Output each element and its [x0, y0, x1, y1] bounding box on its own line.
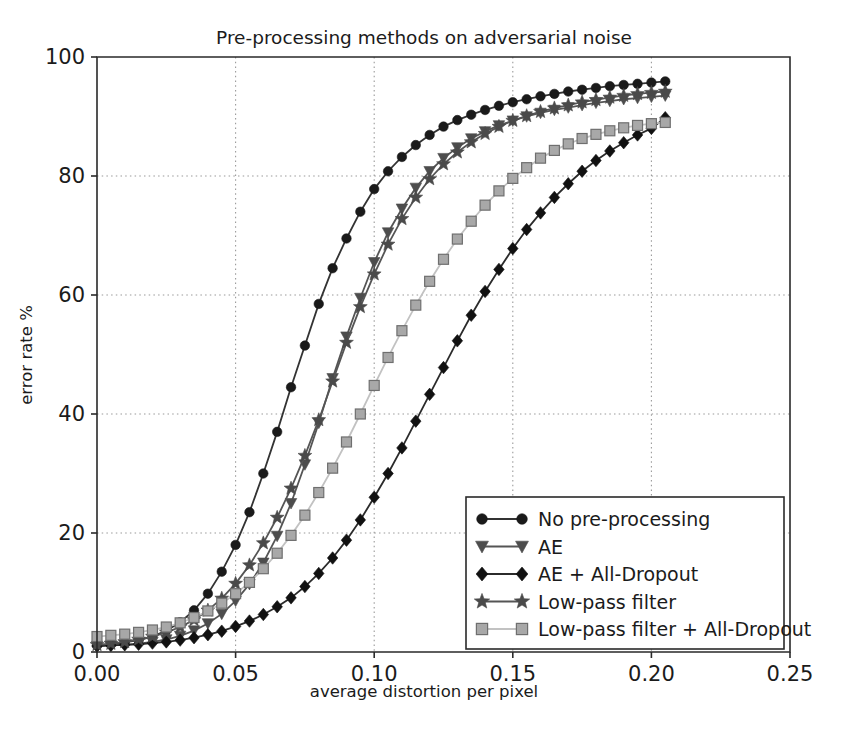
data-point-square [244, 577, 254, 587]
data-point-circle [494, 101, 504, 111]
chart-svg: 0.000.050.100.150.200.25020406080100 No … [0, 0, 846, 730]
data-point-square [605, 126, 615, 136]
data-point-square [466, 216, 476, 226]
data-point-circle [508, 97, 518, 107]
data-point-diamond [230, 620, 241, 633]
data-point-circle [272, 427, 282, 437]
data-point-square [189, 612, 199, 622]
data-point-circle [550, 89, 560, 99]
data-point-circle [425, 130, 435, 140]
data-point-star [326, 374, 340, 387]
data-point-circle [591, 83, 601, 93]
data-point-star [270, 510, 284, 523]
y-tick-label: 0 [72, 640, 85, 664]
y-tick-label: 80 [58, 164, 85, 188]
data-point-square [231, 589, 241, 599]
chart-title: Pre-processing methods on adversarial no… [216, 27, 632, 48]
data-point-diamond [397, 442, 408, 455]
y-tick-label: 40 [58, 402, 85, 426]
data-point-circle [314, 299, 324, 309]
data-point-circle [369, 184, 379, 194]
data-point-square [300, 510, 310, 520]
y-tick-label: 100 [45, 45, 85, 69]
data-point-diamond [591, 154, 602, 167]
data-point-triangle-down [285, 499, 297, 510]
data-point-square [397, 326, 407, 336]
legend[interactable]: No pre-processingAEAE + All-DropoutLow-p… [466, 497, 811, 649]
data-point-triangle-down [202, 619, 214, 630]
x-tick-label: 0.25 [767, 662, 814, 686]
data-point-circle [453, 115, 463, 125]
data-point-square [476, 623, 487, 634]
legend-label: Low-pass filter [538, 591, 676, 613]
data-point-square [314, 488, 324, 498]
data-point-diamond [203, 628, 214, 641]
legend-label: No pre-processing [538, 508, 710, 530]
data-point-circle [286, 382, 296, 392]
data-point-diamond [411, 415, 422, 428]
data-point-square [175, 618, 185, 628]
data-point-circle [563, 87, 573, 97]
data-point-square [660, 117, 670, 127]
data-point-circle [397, 152, 407, 162]
data-point-square [328, 463, 338, 473]
data-point-square [258, 564, 268, 574]
data-point-diamond [189, 631, 200, 644]
data-point-square [452, 234, 462, 244]
data-point-circle [480, 105, 490, 115]
data-point-diamond [272, 601, 283, 614]
data-point-square [134, 627, 144, 637]
data-point-circle [356, 207, 366, 217]
data-point-circle [342, 234, 352, 244]
data-point-square [425, 276, 435, 286]
data-point-triangle-down [271, 531, 283, 542]
data-point-diamond [466, 309, 477, 322]
data-point-square [577, 134, 587, 144]
data-point-square [411, 300, 421, 310]
data-point-circle [328, 263, 338, 273]
data-point-square [355, 409, 365, 419]
data-point-square [217, 598, 227, 608]
data-point-square [203, 606, 213, 616]
data-point-square [369, 380, 379, 390]
data-point-square [591, 129, 601, 139]
x-tick-label: 0.20 [628, 662, 675, 686]
data-point-circle [577, 85, 587, 95]
x-axis-title: average distortion per pixel [310, 682, 538, 701]
data-point-diamond [605, 145, 616, 158]
data-point-square [286, 530, 296, 540]
y-tick-label: 20 [58, 521, 85, 545]
figure-canvas: 0.000.050.100.150.200.25020406080100 No … [0, 0, 846, 730]
data-point-circle [536, 92, 546, 102]
data-point-diamond [258, 608, 269, 621]
legend-label: AE + All-Dropout [538, 563, 698, 585]
data-point-circle [231, 540, 241, 550]
data-point-star [256, 536, 270, 549]
data-point-square [439, 254, 449, 264]
data-point-square [494, 186, 504, 196]
data-point-square [383, 352, 393, 362]
data-point-square [516, 623, 527, 634]
x-tick-label: 0.05 [212, 662, 259, 686]
data-point-square [480, 200, 490, 210]
legend-label: Low-pass filter + All-Dropout [538, 618, 811, 640]
data-point-circle [522, 94, 532, 104]
data-point-square [106, 630, 116, 640]
data-point-star [381, 237, 395, 250]
data-point-circle [439, 122, 449, 131]
y-tick-label: 60 [58, 283, 85, 307]
data-point-square [646, 119, 656, 129]
data-point-square [272, 548, 282, 558]
data-point-star [243, 558, 257, 571]
data-point-diamond [383, 467, 394, 480]
data-point-diamond [216, 625, 227, 638]
data-point-square [536, 153, 546, 163]
data-point-square [508, 173, 518, 183]
data-point-square [563, 139, 573, 149]
data-point-diamond [175, 634, 186, 647]
data-point-square [120, 629, 130, 639]
data-point-diamond [452, 335, 463, 348]
data-point-square [522, 163, 532, 173]
data-point-square [549, 145, 559, 155]
data-point-square [161, 622, 171, 632]
